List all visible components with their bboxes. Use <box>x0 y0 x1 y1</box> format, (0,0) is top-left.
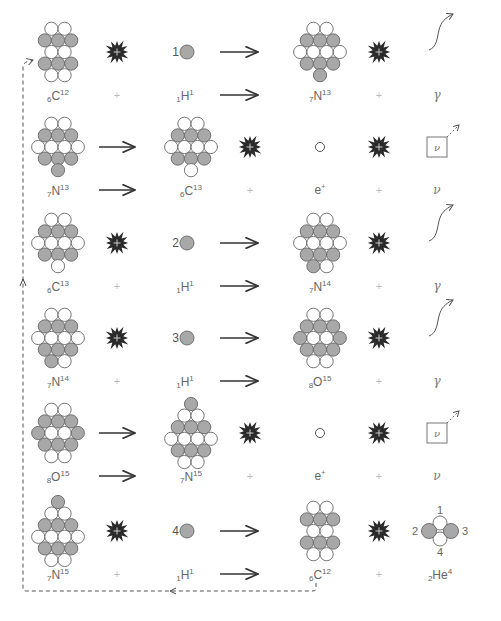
neutron-circle <box>45 426 58 439</box>
proton-circle <box>313 34 326 47</box>
proton-circle <box>65 225 78 238</box>
step-3-gamma-label: γ <box>433 279 440 293</box>
neutron-circle <box>58 331 71 344</box>
step-1-reactant-nucleus <box>38 22 78 82</box>
proton-circle <box>300 34 313 47</box>
proton-circle <box>313 513 326 526</box>
step-4-product-label: 8O15 <box>309 374 332 390</box>
proton-circle <box>65 129 78 142</box>
proton-circle <box>65 152 78 165</box>
proton-circle <box>65 248 78 261</box>
step-3-product-nucleus <box>294 213 347 273</box>
proton-circle <box>300 320 313 333</box>
step-2-neutrino-icon <box>427 125 459 157</box>
step-5-neutrino-label: ν <box>433 469 440 483</box>
neutron-circle <box>307 22 320 35</box>
proton-circle <box>313 69 326 82</box>
step-3-plus-sign: + <box>114 280 120 292</box>
neutron-circle <box>178 117 191 130</box>
step-2-reactant-nucleus <box>32 117 85 177</box>
neutron-circle <box>71 530 84 543</box>
neutron-circle <box>191 140 204 153</box>
proton-circle <box>171 129 184 142</box>
neutron-circle <box>58 355 71 368</box>
step-5-reactant-label: 8O15 <box>47 469 70 485</box>
step-6-proton-label: 1H1 <box>176 567 194 583</box>
neutron-circle <box>32 236 45 249</box>
neutron-circle <box>58 117 71 130</box>
neutron-circle <box>191 432 204 445</box>
neutron-circle <box>58 236 71 249</box>
proton-circle <box>294 331 307 344</box>
proton-circle <box>327 320 340 333</box>
proton-circle <box>300 57 313 70</box>
proton-circle <box>51 415 64 428</box>
proton-circle <box>32 426 45 439</box>
proton-circle <box>327 513 340 526</box>
neutron-circle <box>45 213 58 226</box>
neutron-circle <box>71 236 84 249</box>
step-6-proton-number: 4 <box>172 524 179 538</box>
proton-circle <box>300 225 313 238</box>
neutron-circle <box>32 530 45 543</box>
step-2-reactant-label: 7N13 <box>47 183 69 199</box>
neutron-circle <box>184 164 197 177</box>
step-5-positron-label: e+ <box>315 469 326 483</box>
proton-circle <box>65 320 78 333</box>
proton-circle <box>333 331 346 344</box>
proton-circle <box>307 260 320 273</box>
neutron-circle <box>307 524 320 537</box>
step-3-gamma-ray-icon <box>429 205 453 241</box>
proton-circle <box>45 355 58 368</box>
step-6-energy-burst-icon-2 <box>368 520 391 543</box>
alpha-label-2: 2 <box>412 525 418 537</box>
proton-circle <box>51 225 64 238</box>
proton-circle <box>313 320 326 333</box>
step-2-neutrino-label: ν <box>433 183 440 197</box>
neutron-circle <box>45 69 58 82</box>
step-6-energy-burst-icon <box>106 520 129 543</box>
neutron-circle <box>58 213 71 226</box>
neutron-circle <box>58 45 71 58</box>
step-6-product-label: 6C12 <box>309 567 331 583</box>
proton-circle <box>71 426 84 439</box>
step-4-plus-sign: + <box>114 375 120 387</box>
step-4-reactant-label: 7N14 <box>47 374 69 390</box>
neutron-circle <box>45 308 58 321</box>
neutron-circle <box>45 117 58 130</box>
neutron-circle <box>45 507 58 520</box>
proton-circle <box>51 519 64 532</box>
step-3-proton-number: 2 <box>172 236 179 250</box>
proton-circle <box>65 519 78 532</box>
step-4-energy-burst-icon-2 <box>368 327 391 350</box>
proton-circle <box>38 320 51 333</box>
proton-circle <box>51 57 64 70</box>
neutron-circle <box>58 426 71 439</box>
proton-circle <box>300 248 313 261</box>
neutron-circle <box>307 308 320 321</box>
proton-circle <box>65 438 78 451</box>
proton-circle <box>38 415 51 428</box>
neutron-circle <box>320 260 333 273</box>
proton-circle <box>51 320 64 333</box>
step-1-product-label: 7N13 <box>309 88 331 104</box>
neutron-circle <box>320 213 333 226</box>
proton-circle <box>65 542 78 555</box>
step-1-gamma-ray-icon <box>429 14 453 50</box>
neutron-circle <box>178 432 191 445</box>
proton-circle <box>313 343 326 356</box>
neutron-circle <box>294 45 307 58</box>
cno-cycle-diagram <box>0 0 501 621</box>
step-5-plus-sign: + <box>247 470 253 482</box>
neutron-circle <box>307 501 320 514</box>
neutron-circle <box>45 530 58 543</box>
proton-circle <box>327 34 340 47</box>
neutron-circle <box>307 236 320 249</box>
neutron-circle <box>320 22 333 35</box>
step-3-reactant-nucleus <box>32 213 85 273</box>
step-6-reactant-nucleus <box>32 495 85 566</box>
proton-circle <box>313 536 326 549</box>
neutron-circle <box>58 450 71 463</box>
step-4-gamma-ray-icon <box>429 300 453 336</box>
neutron-circle <box>333 236 346 249</box>
